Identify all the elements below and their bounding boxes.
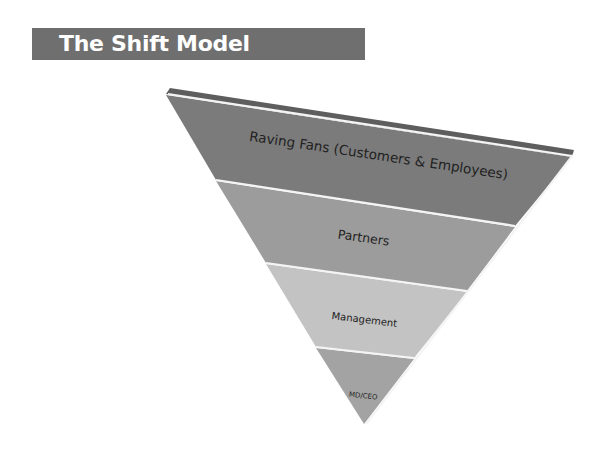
pyramid-level-md-ceo	[316, 348, 414, 424]
inverted-pyramid-diagram: Raving Fans (Customers & Employees) Part…	[0, 0, 605, 452]
